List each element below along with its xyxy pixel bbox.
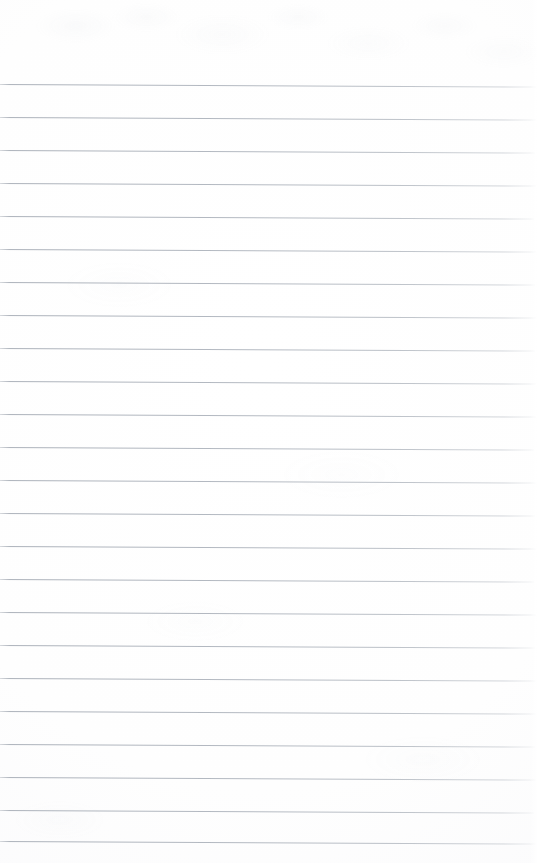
paper-background xyxy=(0,0,542,863)
notebook-page xyxy=(0,0,542,863)
